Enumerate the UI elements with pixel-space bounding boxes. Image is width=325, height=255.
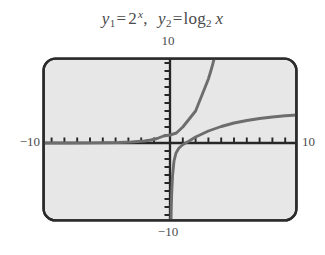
- axis-label-bottom: −10: [140, 224, 196, 240]
- equation-log-argument: x: [215, 9, 223, 28]
- equation-y1-subscript: 1: [110, 17, 116, 29]
- axis-label-top: 10: [140, 33, 196, 49]
- equation-base: 2: [127, 9, 138, 28]
- figure-graphing-calculator: y1=2x, y2=log2 x 10 −10 10 −10: [0, 0, 325, 255]
- equation-log-base: 2: [206, 17, 212, 29]
- equation-title: y1=2x, y2=log2 x: [0, 8, 325, 29]
- equation-y2-subscript: 2: [166, 17, 172, 29]
- calculator-screen: [42, 57, 298, 222]
- equation-y1-variable: y: [102, 9, 110, 28]
- equation-y2-variable: y: [158, 9, 166, 28]
- axis-label-right: 10: [302, 134, 324, 150]
- axis-label-left: −10: [6, 134, 40, 150]
- equation-equals-2: =: [172, 9, 184, 28]
- equation-equals-1: =: [116, 9, 128, 28]
- equation-comma: ,: [143, 9, 153, 28]
- equation-log-name: log: [184, 9, 206, 28]
